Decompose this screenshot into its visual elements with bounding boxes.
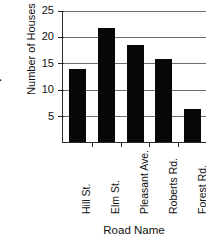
plot-area [62,11,206,143]
x-axis-tick-label: Hill St. [81,184,92,214]
x-axis-tick-label: Elm St. [110,180,121,214]
gridline [63,11,206,12]
x-axis-tick-label: Roberts Rd. [168,158,179,214]
bar [184,109,201,142]
y-axis-tick-label: 20 [28,31,54,42]
x-axis-tick-label: Forest Rd. [197,165,206,214]
y-axis-tick-mark [58,63,64,64]
y-axis-tick-labels: 510152025 [28,0,54,150]
list-marker: l. [0,68,3,83]
x-axis-tick-label: Pleasant Ave. [139,150,150,214]
y-axis-tick-mark [58,37,64,38]
bar [155,59,172,142]
y-axis-tick-mark [58,11,64,12]
x-axis-title: Road Name [62,224,206,236]
y-axis-tick-label: 15 [28,58,54,69]
y-axis-tick-label: 25 [28,5,54,16]
y-axis-tick-label: 10 [28,84,54,95]
bar [127,45,144,142]
gridline [63,37,206,38]
y-axis-tick-mark [58,116,64,117]
bar [69,69,86,142]
y-axis-tick-mark [58,90,64,91]
bar-chart-figure: l. Number of Houses 510152025 Hill St.El… [0,0,206,240]
x-axis-tick-labels: Hill St.Elm St.Pleasant Ave.Roberts Rd.F… [62,146,206,216]
y-axis-tick-label: 5 [28,111,54,122]
bar [98,28,115,142]
